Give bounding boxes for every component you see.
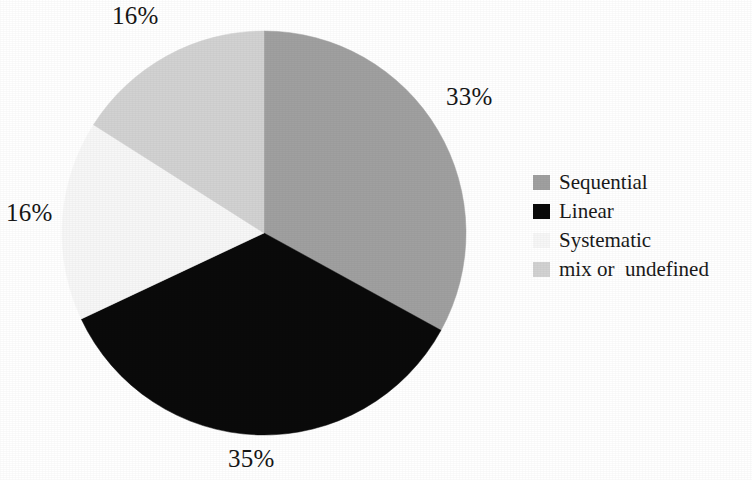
pie-label-sequential: 33%: [446, 84, 493, 109]
pie-slices: [62, 31, 466, 435]
legend-swatch-sequential: [533, 175, 550, 190]
pie-label-linear: 35%: [228, 446, 275, 471]
legend-label-linear: Linear: [559, 201, 614, 222]
legend-swatch-systematic: [533, 233, 550, 248]
chart-legend: Sequential Linear Systematic mix or unde…: [533, 168, 748, 284]
legend-swatch-mix-or-undefined: [533, 262, 550, 277]
legend-item-sequential[interactable]: Sequential: [533, 168, 748, 197]
legend-label-systematic: Systematic: [559, 230, 651, 251]
pie-chart-figure: 33% 16% 16% 35% Sequential Linear System…: [0, 0, 752, 480]
legend-item-mix-or-undefined[interactable]: mix or undefined: [533, 255, 748, 284]
pie-label-mix-or-undefined: 16%: [112, 3, 159, 28]
legend-label-sequential: Sequential: [559, 172, 648, 193]
legend-swatch-linear: [533, 204, 550, 219]
pie-label-systematic: 16%: [6, 200, 53, 225]
legend-label-mix-or-undefined: mix or undefined: [559, 259, 709, 280]
legend-item-linear[interactable]: Linear: [533, 197, 748, 226]
legend-item-systematic[interactable]: Systematic: [533, 226, 748, 255]
pie-chart-plot-area: [61, 30, 467, 436]
pie-chart-svg: [61, 30, 467, 436]
